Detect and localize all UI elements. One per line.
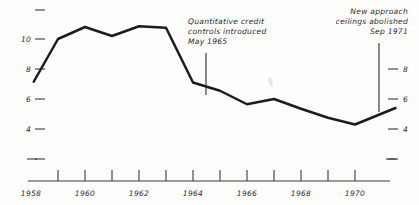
y-axis-right-label-6: 6: [403, 95, 408, 104]
y-axis-left-label-4: 4: [26, 125, 31, 134]
y-axis-right-ticks: [388, 69, 398, 159]
x-axis-label-1964: 1964: [183, 189, 203, 198]
y-axis-left-ticks: [35, 10, 45, 159]
annotation-ceilings-abolished-line-3: Sep 1971: [370, 27, 408, 36]
x-axis-label-1968: 1968: [291, 189, 311, 198]
y-axis-left-label-8: 8: [26, 65, 31, 74]
y-axis-left-label-6: 6: [26, 95, 31, 104]
x-axis-ticks: [58, 170, 355, 181]
x-axis-label-1966: 1966: [237, 189, 257, 198]
x-axis-label-1970: 1970: [345, 189, 365, 198]
annotation-credit-controls-line-2: controls introduced: [188, 27, 267, 36]
x-axis-label-1958: 1958: [21, 189, 41, 198]
x-axis-label-1960: 1960: [75, 189, 95, 198]
y-axis-left-label-10: 10: [21, 35, 31, 44]
annotation-ceilings-abolished: New approach ceilings abolished Sep 1971: [336, 7, 408, 112]
annotation-ceilings-abolished-line-1: New approach: [350, 7, 408, 16]
y-axis-right-labels: 8 6 4: [403, 65, 408, 134]
y-axis-right-label-8: 8: [403, 65, 408, 74]
annotation-credit-controls-line-3: May 1965: [188, 37, 227, 46]
annotation-credit-controls-line-1: Quantitative credit: [188, 17, 265, 26]
y-axis-right-label-4: 4: [403, 125, 408, 134]
line-chart: 10 8 6 4 8 6 4 1958 1960 19: [0, 0, 419, 205]
x-axis-label-1962: 1962: [129, 189, 149, 198]
y-axis-left-labels: 10 8 6 4: [21, 35, 31, 134]
scan-artifact: [268, 77, 273, 87]
x-axis-labels: 1958 1960 1962 1964 1966 1968 1970: [21, 189, 365, 198]
annotation-ceilings-abolished-line-2: ceilings abolished: [336, 17, 408, 26]
